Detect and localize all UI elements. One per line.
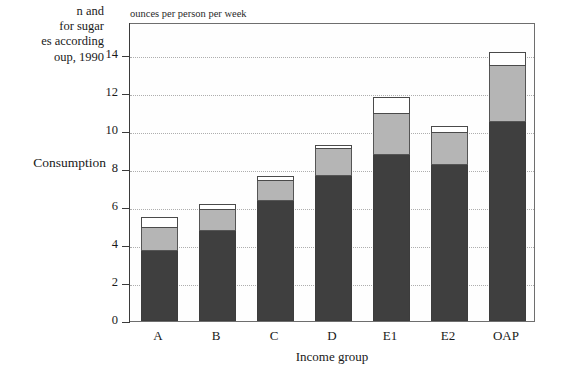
y-axis-tick: [122, 208, 130, 209]
bar-segment-2: [431, 132, 468, 165]
y-axis-tick-label: 6: [88, 199, 118, 214]
bar-e1[interactable]: [373, 98, 410, 321]
y-axis-tick: [122, 284, 130, 285]
bar-segment-2: [257, 180, 294, 201]
bar-segment-1: [431, 164, 468, 321]
bar-segment-3: [315, 145, 352, 149]
bar-segment-1: [257, 200, 294, 321]
bar-segment-1: [489, 121, 526, 322]
gridline: [130, 133, 534, 134]
y-axis-spine: [129, 23, 130, 322]
bar-segment-1: [373, 154, 410, 321]
x-axis-tick-label: C: [244, 328, 304, 344]
bar-segment-2: [199, 209, 236, 231]
y-axis-tick: [122, 246, 130, 247]
bar-segment-3: [199, 204, 236, 210]
x-axis-tick-label: D: [302, 328, 362, 344]
y-axis-tick-label: 8: [88, 161, 118, 176]
x-axis-tick-label: B: [186, 328, 246, 344]
y-axis-tick-label: 2: [88, 275, 118, 290]
x-axis-tick-label: OAP: [476, 328, 536, 344]
bar-segment-3: [431, 126, 468, 133]
y-axis-unit-label: ounces per person per week: [130, 8, 247, 19]
bar-e2[interactable]: [431, 127, 468, 321]
bar-d[interactable]: [315, 146, 352, 321]
bar-segment-1: [141, 250, 178, 321]
y-axis-tick-label: 14: [88, 47, 118, 62]
y-axis-tick: [122, 56, 130, 57]
x-axis-tick-label: E2: [418, 328, 478, 344]
bar-segment-1: [315, 175, 352, 321]
bar-segment-2: [373, 113, 410, 155]
bar-segment-1: [199, 230, 236, 321]
y-axis-tick: [122, 322, 130, 323]
y-axis-tick: [122, 170, 130, 171]
bar-segment-3: [257, 176, 294, 182]
bar-segment-2: [489, 65, 526, 121]
x-axis-tick-label: E1: [360, 328, 420, 344]
plot-area: [129, 23, 535, 322]
y-axis-tick: [122, 94, 130, 95]
bar-oap[interactable]: [489, 53, 526, 321]
y-axis-tick: [122, 132, 130, 133]
x-axis-tick-label: A: [128, 328, 188, 344]
bar-segment-2: [141, 227, 178, 251]
x-axis-title: Income group: [129, 349, 535, 365]
bar-a[interactable]: [141, 218, 178, 321]
bar-segment-2: [315, 148, 352, 176]
y-axis-tick-label: 0: [88, 313, 118, 328]
y-axis-tick-label: 12: [88, 85, 118, 100]
y-axis-tick-label: 4: [88, 237, 118, 252]
stacked-bar-chart: ounces per person per week Income group …: [0, 0, 581, 370]
gridline: [130, 57, 534, 58]
bar-segment-3: [373, 97, 410, 114]
gridline: [130, 95, 534, 96]
bar-segment-3: [141, 217, 178, 228]
bar-c[interactable]: [257, 177, 294, 321]
y-axis-tick-label: 10: [88, 123, 118, 138]
bar-b[interactable]: [199, 205, 236, 321]
bar-segment-3: [489, 52, 526, 66]
